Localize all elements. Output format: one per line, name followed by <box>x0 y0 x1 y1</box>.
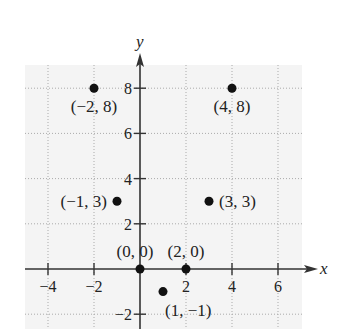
data-point-label: (−1, 3) <box>61 192 107 211</box>
data-point <box>228 84 237 93</box>
data-point <box>205 197 214 206</box>
x-axis-label: x <box>319 259 328 278</box>
data-point-label: (3, 3) <box>219 192 256 211</box>
y-tick-label: 4 <box>124 171 132 188</box>
y-tick-label: −2 <box>115 306 132 323</box>
data-point-label: (−2, 8) <box>71 97 117 116</box>
data-point <box>113 197 122 206</box>
data-point <box>90 84 99 93</box>
data-point-label: (0, 0) <box>117 242 154 261</box>
data-point-label: (1, −1) <box>165 301 211 320</box>
data-point-label: (2, 0) <box>168 242 205 261</box>
y-tick-label: 6 <box>124 125 132 142</box>
data-point <box>136 265 145 274</box>
y-axis-label: y <box>134 32 144 51</box>
x-tick-label: 6 <box>274 278 282 295</box>
data-point-label: (4, 8) <box>214 97 251 116</box>
y-tick-label: 8 <box>124 80 132 97</box>
data-point <box>159 287 168 296</box>
x-tick-label: −2 <box>85 278 102 295</box>
x-tick-label: −4 <box>39 278 56 295</box>
y-tick-label: 2 <box>124 216 132 233</box>
scatter-plot: −4−2246−22468 (−2, 8)(4, 8)(−1, 3)(3, 3)… <box>0 0 355 329</box>
x-tick-label: 4 <box>228 278 236 295</box>
data-point <box>182 265 191 274</box>
x-tick-label: 2 <box>182 278 190 295</box>
